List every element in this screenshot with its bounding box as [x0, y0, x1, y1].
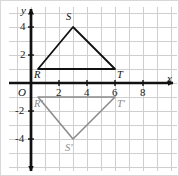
x-tick-label-8: 8	[140, 87, 146, 98]
x-tick-label-2: 2	[56, 87, 62, 98]
vertex-label-s: S	[66, 12, 71, 23]
axes	[9, 9, 173, 171]
x-axis-label: x	[167, 73, 172, 84]
triangle-r-s-t	[38, 27, 115, 69]
origin-label: O	[18, 87, 26, 98]
y-tick-label-neg4: -4	[15, 133, 24, 144]
x-tick-label-4: 4	[84, 87, 90, 98]
vertex-label-t-prime: T'	[117, 99, 125, 110]
vertex-label-r-prime: R'	[34, 99, 43, 110]
triangle-r-prime-s-prime-t-prime	[38, 97, 115, 139]
y-tick-label-2: 2	[20, 49, 26, 60]
vertex-label-s-prime: S'	[65, 143, 73, 154]
x-tick-label-6: 6	[112, 87, 118, 98]
vertex-label-r: R	[34, 70, 40, 81]
coordinate-plane-figure: y x O 4 2 -2 -4 2 4 6 8 R S T R' S' T'	[0, 0, 179, 176]
vertex-label-t: T	[117, 70, 123, 81]
plot-canvas	[1, 1, 179, 176]
y-tick-label-neg2: -2	[15, 105, 24, 116]
grid-lines	[9, 7, 177, 171]
y-tick-label-4: 4	[20, 21, 26, 32]
y-axis-label: y	[21, 5, 26, 16]
